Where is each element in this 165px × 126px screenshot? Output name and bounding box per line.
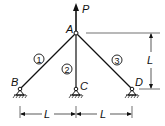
member-1-tag: 1 xyxy=(34,54,44,65)
member-3-tag: 3 xyxy=(112,55,122,66)
pin-support-b-icon xyxy=(13,87,27,98)
node-label-c: C xyxy=(80,80,88,92)
load-arrow-icon xyxy=(73,3,79,33)
member-2-tag: 2 xyxy=(62,64,72,75)
truss-diagram: P A B C D 1 2 3 xyxy=(0,0,165,126)
height-dimension-label: L xyxy=(147,54,153,66)
svg-text:1: 1 xyxy=(37,55,42,65)
node-label-b: B xyxy=(11,76,18,88)
node-label-d: D xyxy=(135,76,143,88)
member-1 xyxy=(20,33,76,89)
pin-support-d-icon xyxy=(125,87,139,98)
left-span-label: L xyxy=(44,108,50,120)
joint-a xyxy=(74,31,78,35)
span-dimensions xyxy=(20,106,132,118)
svg-text:2: 2 xyxy=(65,65,70,75)
load-label: P xyxy=(82,3,90,15)
svg-text:3: 3 xyxy=(115,56,120,66)
right-span-label: L xyxy=(100,108,106,120)
node-label-a: A xyxy=(65,23,73,35)
